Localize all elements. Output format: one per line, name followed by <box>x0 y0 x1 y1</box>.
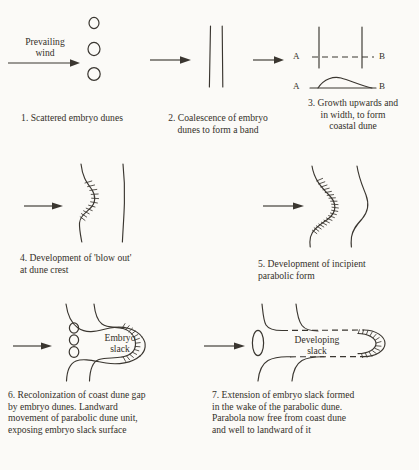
label-a-upper: A <box>293 51 300 61</box>
dune-evolution-figure: Prevailing wind 1. Scattered embryo dune… <box>0 0 419 470</box>
dune-profile-mound <box>318 77 372 88</box>
coast-dune-lower-arm <box>258 357 290 381</box>
landward-curve-line <box>351 166 368 247</box>
embryo-slack-label: Embryo slack <box>87 332 153 354</box>
stage-arrow-6 <box>13 339 53 353</box>
stage-arrow-4 <box>24 199 64 213</box>
embryo-dune-ellipse <box>69 347 79 358</box>
stage-arrow-1-2 <box>150 53 192 67</box>
caption-panel-3: 3. Growth upwards and in width, to form … <box>290 97 416 132</box>
inner-coast-dune-upper-arm <box>296 304 318 331</box>
parabola-nose-inner <box>358 334 376 354</box>
embryo-dune-ellipse <box>88 68 100 81</box>
panel-1-scattered-embryo-dunes <box>82 14 110 92</box>
caption-panel-2: 2. Coalescence of embryo dunes to form a… <box>148 112 288 135</box>
inner-parabola-upper-limb <box>94 304 123 329</box>
band-line-landward <box>222 26 223 87</box>
stage-arrow-7 <box>204 339 246 353</box>
embryo-dune-ellipse <box>88 42 100 55</box>
prevailing-wind-arrow <box>8 56 82 70</box>
caption-panel-5: 5. Development of incipient parabolic fo… <box>258 258 419 281</box>
coast-dune-upper-arm <box>262 304 282 331</box>
panel-3-growth-plan <box>300 26 400 72</box>
embryo-dune-ellipse <box>89 17 99 28</box>
label-b-upper: B <box>379 51 385 61</box>
embryo-dune-ellipse <box>252 330 263 355</box>
caption-panel-4: 4. Development of 'blow out' at dune cre… <box>20 252 200 275</box>
caption-panel-7: 7. Extension of embryo slack formed in t… <box>212 389 412 435</box>
developing-slack-label: Developing slack <box>277 334 357 356</box>
landward-dune-line <box>122 164 124 242</box>
panel-4-blow-out <box>66 163 166 243</box>
panel-5-incipient-parabolic <box>295 163 405 249</box>
outer-parabola-lower-limb <box>67 356 141 381</box>
parabola-upper-dashed-arm <box>282 330 364 331</box>
caption-panel-6: 6. Recolonization of coast dune gap by e… <box>8 389 203 435</box>
band-line-seaward <box>209 26 210 87</box>
panel-2-coalescence-band <box>205 25 229 89</box>
embryo-dune-ellipse <box>69 335 78 345</box>
label-b-lower: B <box>379 81 385 91</box>
inner-coast-dune-lower-arm <box>292 357 324 381</box>
caption-panel-1: 1. Scattered embryo dunes <box>2 112 142 124</box>
prevailing-wind-label: Prevailing wind <box>8 36 82 58</box>
stage-arrow-2-3 <box>253 53 285 67</box>
label-a-lower: A <box>293 81 300 91</box>
dune-crest-blowout-line <box>79 164 94 242</box>
